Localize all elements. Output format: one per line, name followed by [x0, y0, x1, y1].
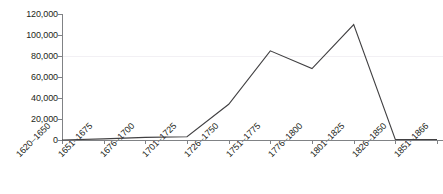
- y-axis-ticks: [58, 15, 62, 141]
- plot-area: [0, 0, 443, 194]
- data-series-line: [62, 25, 437, 141]
- axes: [62, 14, 443, 141]
- line-chart: 120,000 100,000 80,000 60,000 40,000 20,…: [0, 0, 443, 194]
